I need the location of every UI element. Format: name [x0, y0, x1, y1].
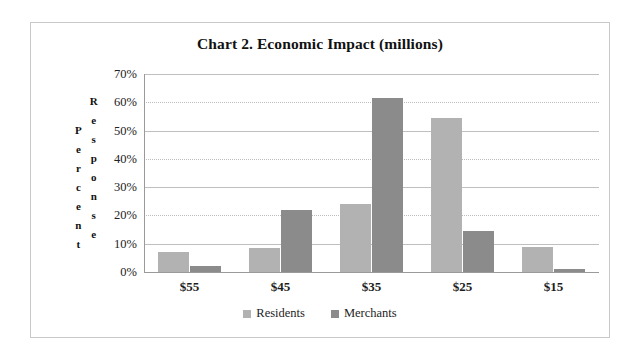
x-axis-labels: $55$45$35$25$15 [144, 279, 599, 295]
legend-item-merchants[interactable]: Merchants [331, 306, 397, 321]
y-tick-label: 60% [114, 95, 137, 110]
y-tick-label: 10% [114, 236, 137, 251]
y-tick-label: 50% [114, 123, 137, 138]
x-tick-label: $45 [235, 279, 326, 295]
bar-merchants-45[interactable] [281, 210, 312, 272]
y-axis-title-letter: R [90, 92, 98, 111]
bar-merchants-25[interactable] [463, 231, 494, 272]
y-axis-title-letter: p [91, 149, 97, 168]
bar-residents-55[interactable] [158, 252, 189, 272]
bar-group [235, 74, 326, 272]
y-axis-title-letter: P [75, 121, 82, 140]
y-axis-title-response: Response [90, 92, 98, 244]
y-tick-label: 70% [114, 67, 137, 82]
x-tick-label: $55 [144, 279, 235, 295]
bar-residents-25[interactable] [431, 118, 462, 272]
bars-layer [144, 74, 599, 272]
bar-group [326, 74, 417, 272]
y-axis-title-letter: e [76, 140, 81, 159]
legend-swatch-icon [243, 310, 251, 318]
x-tick-label: $35 [326, 279, 417, 295]
y-tick-label: 20% [114, 208, 137, 223]
chart-frame: Chart 2. Economic Impact (millions) Perc… [30, 22, 610, 338]
legend-swatch-icon [331, 310, 339, 318]
chart-title: Chart 2. Economic Impact (millions) [31, 35, 609, 53]
y-axis-title-letter: s [92, 130, 96, 149]
y-axis-title-letter: e [76, 197, 81, 216]
x-tick-label: $15 [508, 279, 599, 295]
y-axis-title-letter: r [76, 159, 81, 178]
plot-area: 70%60%50%40%30%20%10%0% [144, 74, 599, 272]
y-axis-title: Percent Response [73, 83, 117, 283]
bar-group [417, 74, 508, 272]
bar-group [144, 74, 235, 272]
y-axis-title-letter: e [91, 225, 96, 244]
legend-item-residents[interactable]: Residents [243, 306, 305, 321]
y-axis-title-letter: e [91, 111, 96, 130]
chart-legend: ResidentsMerchants [31, 306, 609, 321]
y-axis-title-letter: c [76, 178, 81, 197]
bar-residents-45[interactable] [249, 248, 280, 272]
y-axis-title-letter: o [91, 168, 97, 187]
bar-merchants-55[interactable] [190, 266, 221, 272]
y-tick-label: 40% [114, 151, 137, 166]
bar-residents-15[interactable] [522, 247, 553, 272]
legend-label: Residents [256, 306, 305, 321]
x-tick-label: $25 [417, 279, 508, 295]
legend-label: Merchants [344, 306, 397, 321]
bar-residents-35[interactable] [340, 204, 371, 272]
y-axis-title-percent: Percent [75, 121, 82, 254]
y-axis-title-letter: n [91, 187, 97, 206]
y-axis-title-letter: n [75, 216, 81, 235]
y-tick-label: 0% [120, 265, 137, 280]
bar-group [508, 74, 599, 272]
y-tick-label: 30% [114, 180, 137, 195]
bar-merchants-15[interactable] [554, 269, 585, 272]
y-axis-title-letter: s [92, 206, 96, 225]
y-axis-title-letter: t [77, 235, 81, 254]
bar-merchants-35[interactable] [372, 98, 403, 272]
gridline [144, 272, 599, 273]
